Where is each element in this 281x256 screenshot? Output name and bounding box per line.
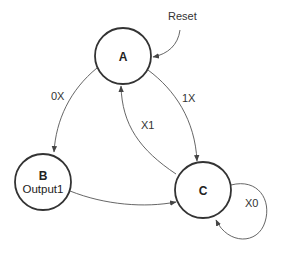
- state-b-output: Output1: [23, 183, 64, 195]
- state-a[interactable]: A: [95, 28, 151, 84]
- edge-a-to-b: [54, 68, 97, 152]
- edge-a-to-c: [148, 70, 197, 161]
- reset-label: Reset: [168, 10, 197, 22]
- label-a-to-b: 0X: [51, 90, 65, 102]
- edge-b-to-c: [70, 191, 176, 205]
- state-b[interactable]: B Output1: [15, 154, 71, 210]
- label-c-self: X0: [245, 197, 258, 209]
- reset-arrow: [153, 30, 180, 57]
- state-a-name: A: [119, 50, 128, 64]
- label-c-to-a: X1: [141, 119, 154, 131]
- state-b-name: B: [39, 169, 48, 183]
- state-c[interactable]: C: [175, 162, 231, 218]
- state-c-name: C: [199, 184, 208, 198]
- label-a-to-c: 1X: [182, 92, 196, 104]
- state-diagram: A B Output1 C Reset 0X 1X X1 X0: [0, 0, 281, 256]
